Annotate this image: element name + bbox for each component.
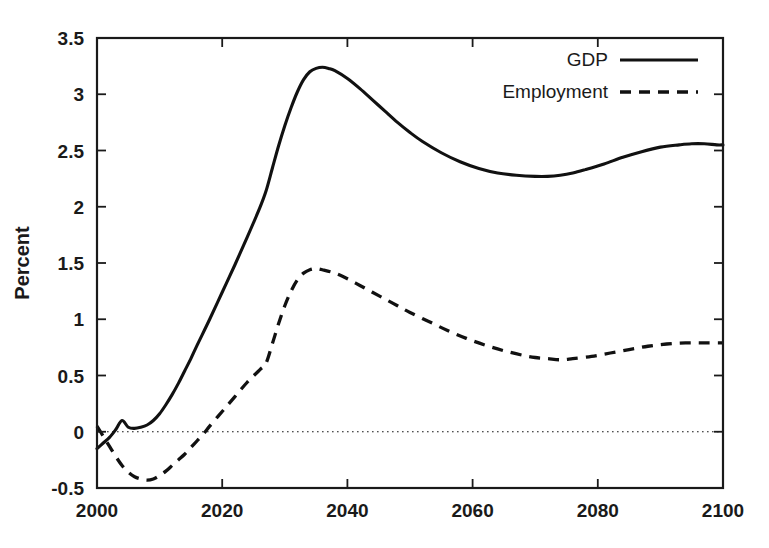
series-line-gdp (97, 67, 723, 448)
legend-label-employment: Employment (502, 81, 608, 102)
y-tick-label: 1 (73, 309, 84, 330)
y-tick-label: 2.5 (58, 141, 85, 162)
x-tick-label: 2060 (451, 500, 493, 521)
x-tick-label: 2100 (702, 500, 744, 521)
y-tick-label: 3.5 (58, 28, 85, 49)
chart-figure: 200020202040206020802100-0.500.511.522.5… (0, 0, 769, 548)
y-tick-label: 2 (73, 197, 84, 218)
x-tick-label: 2020 (201, 500, 243, 521)
x-tick-label: 2040 (326, 500, 368, 521)
y-tick-label: -0.5 (51, 478, 84, 499)
plot-frame (97, 38, 723, 488)
series-line-employment (97, 269, 723, 481)
y-tick-label: 1.5 (58, 253, 85, 274)
y-tick-label: 0 (73, 422, 84, 443)
y-tick-label: 3 (73, 84, 84, 105)
line-chart-svg: 200020202040206020802100-0.500.511.522.5… (0, 0, 769, 548)
y-tick-label: 0.5 (58, 366, 85, 387)
x-tick-label: 2000 (76, 500, 118, 521)
x-tick-label: 2080 (577, 500, 619, 521)
legend-label-gdp: GDP (567, 49, 608, 70)
y-axis-title: Percent (11, 226, 33, 300)
